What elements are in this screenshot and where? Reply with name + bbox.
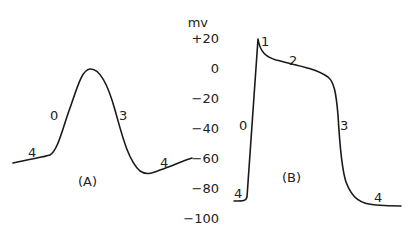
y-tick-label: −20: [192, 91, 219, 106]
y-axis-unit-label: mv: [188, 15, 209, 30]
label-b-phase-3: 3: [340, 118, 348, 133]
action-potential-diagram: mv +200−20−40−60−80−100 4 0 3 4 (A) 4 0 …: [0, 0, 411, 235]
y-tick-label: −100: [183, 211, 219, 226]
y-tick-label: +20: [192, 31, 219, 46]
panel-a-label: (A): [78, 174, 97, 189]
y-tick-label: −60: [192, 151, 219, 166]
label-a-phase-4-left: 4: [28, 145, 36, 160]
label-b-phase-2: 2: [289, 53, 297, 68]
label-b-phase-1: 1: [261, 34, 269, 49]
label-a-phase-3: 3: [119, 108, 127, 123]
label-b-phase-4-left: 4: [234, 186, 242, 201]
label-a-phase-0: 0: [50, 108, 58, 123]
y-tick-label: 0: [211, 61, 219, 76]
panel-b-label: (B): [282, 170, 301, 185]
y-tick-label: −80: [192, 181, 219, 196]
y-tick-label: −40: [192, 121, 219, 136]
curve-b-fast-response: [234, 39, 401, 206]
label-b-phase-0: 0: [239, 118, 247, 133]
label-b-phase-4-right: 4: [374, 190, 382, 205]
label-a-phase-4-right: 4: [160, 155, 168, 170]
